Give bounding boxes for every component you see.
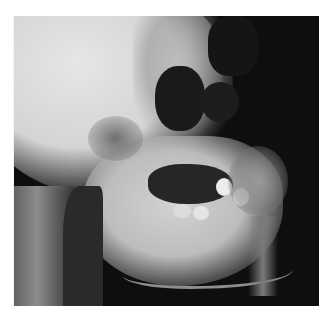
frame-edge: [13, 16, 14, 306]
neck-shadow: [63, 186, 103, 306]
sinus-cavity-2: [201, 82, 239, 122]
sinus-cavity: [155, 66, 205, 131]
chin: [248, 216, 278, 296]
upper-dark: [208, 16, 258, 76]
tooth: [173, 204, 191, 218]
maxilla: [228, 146, 288, 216]
tooth: [193, 206, 209, 220]
xray-image: [13, 16, 319, 306]
orbit: [88, 116, 143, 161]
